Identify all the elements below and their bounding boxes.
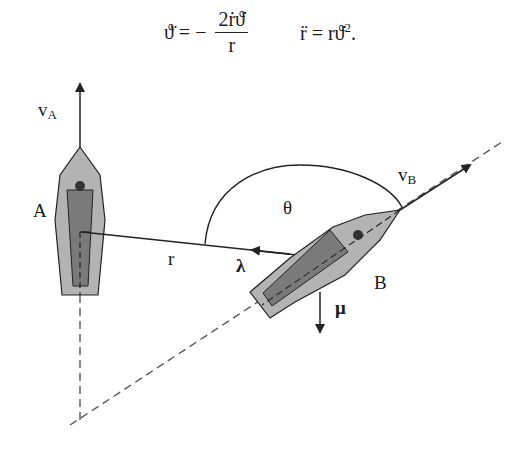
label-theta: θ (283, 198, 292, 217)
boat-a-helm-icon (75, 181, 85, 191)
boat-a (55, 147, 105, 295)
boat-pursuit-diagram (0, 0, 520, 453)
boat-b (250, 210, 400, 318)
label-lambda: λ (236, 256, 245, 275)
label-v-b: vB (398, 165, 416, 186)
lambda-arrow (252, 250, 290, 254)
label-mu: μ (335, 298, 346, 317)
label-boat-a: A (33, 201, 47, 220)
label-r: r (168, 249, 174, 268)
label-v-a: vA (38, 100, 57, 121)
label-boat-b: B (374, 273, 387, 292)
